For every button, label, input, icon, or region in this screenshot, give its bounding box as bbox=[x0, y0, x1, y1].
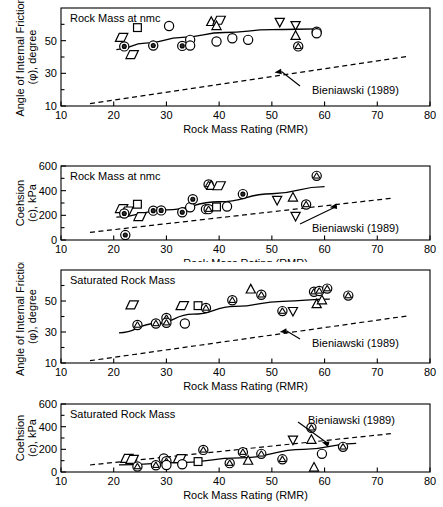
x-axis: 1020304050607080 bbox=[55, 102, 436, 122]
data-point-circle-hatch bbox=[133, 320, 142, 329]
y-tick-label: 600 bbox=[39, 160, 57, 172]
x-tick-label: 30 bbox=[160, 109, 172, 121]
x-tick-label: 80 bbox=[424, 366, 436, 378]
data-point-triangle-down bbox=[273, 196, 282, 205]
data-point-circle-hatch bbox=[312, 171, 321, 180]
x-axis: 1020304050607080 bbox=[55, 236, 436, 256]
y-axis-label-line2: (c), kPa bbox=[26, 418, 38, 457]
y-tick-label: 0 bbox=[51, 234, 57, 246]
data-point-circle-hatch bbox=[257, 290, 266, 299]
bieniawski-annotation: Bieniawski (1989) bbox=[280, 328, 399, 349]
data-point-triangle-down bbox=[275, 18, 284, 27]
data-point-circle bbox=[178, 460, 187, 469]
data-point-circle-dot bbox=[238, 190, 247, 199]
x-tick-label: 80 bbox=[424, 109, 436, 121]
chart-panel-panel-d: 10203040506070800200400600Rock Mass Rati… bbox=[0, 395, 443, 507]
data-point-circle-hatch bbox=[278, 306, 287, 315]
x-axis: 1020304050607080 bbox=[55, 359, 436, 379]
x-tick-label: 30 bbox=[160, 475, 172, 487]
chart-panel-panel-b: 10203040506070800200400600Rock Mass Rati… bbox=[0, 138, 443, 262]
x-tick-label: 40 bbox=[213, 243, 225, 255]
x-tick-label: 30 bbox=[160, 243, 172, 255]
data-point-parallelogram bbox=[126, 51, 138, 59]
x-tick-label: 80 bbox=[424, 475, 436, 487]
y-tick-label: 30 bbox=[45, 326, 57, 338]
data-point-parallelogram bbox=[126, 301, 138, 309]
bieniawski-annotation: Bieniawski (1989) bbox=[300, 204, 399, 234]
x-tick-label: 50 bbox=[266, 366, 278, 378]
data-point-circle bbox=[317, 449, 326, 458]
x-tick-label: 60 bbox=[318, 109, 330, 121]
x-tick-label: 40 bbox=[213, 109, 225, 121]
data-point-circle bbox=[162, 460, 171, 469]
panel-title: Saturated Rock Mass bbox=[70, 274, 176, 286]
data-point-circle-dot bbox=[157, 206, 166, 215]
x-axis-label: Rock Mass Rating (RMR) bbox=[183, 380, 308, 392]
y-tick-label: 50 bbox=[45, 35, 57, 47]
data-point-circle-hatch bbox=[228, 296, 237, 305]
x-tick-label: 20 bbox=[108, 109, 120, 121]
data-point-circle-hatch bbox=[133, 462, 142, 471]
data-point-circle-hatch bbox=[199, 445, 208, 454]
y-tick-label: 400 bbox=[39, 185, 57, 197]
x-tick-label: 40 bbox=[213, 366, 225, 378]
data-point-square bbox=[194, 458, 202, 466]
data-point-circle-hatch bbox=[225, 459, 234, 468]
x-axis-label: Rock Mass Rating (RMR) bbox=[183, 489, 308, 501]
data-point-circle-hatch bbox=[294, 42, 303, 51]
data-point-circle-hatch bbox=[162, 318, 171, 327]
y-tick-label: 0 bbox=[51, 466, 57, 478]
x-tick-label: 30 bbox=[160, 366, 172, 378]
x-tick-label: 50 bbox=[266, 243, 278, 255]
data-point-circle bbox=[212, 37, 221, 46]
x-tick-label: 80 bbox=[424, 243, 436, 255]
data-point-square bbox=[213, 203, 221, 211]
x-axis: 1020304050607080 bbox=[55, 468, 436, 488]
y-tick-label: 10 bbox=[45, 100, 57, 112]
data-layer bbox=[90, 423, 393, 471]
y-tick-label: 10 bbox=[45, 357, 57, 369]
data-point-circle bbox=[186, 41, 195, 50]
x-axis-label: Rock Mass Rating (RMR) bbox=[183, 123, 308, 135]
data-point-circle bbox=[228, 34, 237, 43]
data-point-triangle-up bbox=[309, 462, 318, 471]
data-point-triangle-down bbox=[288, 307, 297, 316]
x-tick-label: 70 bbox=[371, 109, 383, 121]
x-tick-label: 40 bbox=[213, 475, 225, 487]
data-point-triangle-up bbox=[246, 284, 255, 293]
data-point-circle-hatch bbox=[238, 448, 247, 457]
data-layer bbox=[90, 284, 409, 361]
bieniawski-annotation-label: Bieniawski (1989) bbox=[312, 222, 399, 234]
y-axis: 103050 bbox=[45, 286, 66, 370]
data-point-circle-hatch bbox=[201, 303, 210, 312]
data-point-circle-hatch bbox=[151, 461, 160, 470]
data-point-circle bbox=[312, 29, 321, 38]
y-tick-label: 400 bbox=[39, 421, 57, 433]
x-tick-label: 60 bbox=[318, 475, 330, 487]
data-point-circle-hatch bbox=[257, 449, 266, 458]
x-tick-label: 70 bbox=[371, 366, 383, 378]
data-point-circle-hatch bbox=[344, 291, 353, 300]
data-point-circle-dot bbox=[188, 195, 197, 204]
y-axis-label-line2: (c), kPa bbox=[26, 183, 38, 222]
panel-title: Rock Mass at nmc bbox=[70, 170, 161, 182]
x-tick-label: 20 bbox=[108, 243, 120, 255]
data-point-circle-hatch bbox=[278, 455, 287, 464]
x-tick-label: 70 bbox=[371, 243, 383, 255]
y-tick-label: 200 bbox=[39, 209, 57, 221]
y-tick-label: 600 bbox=[39, 398, 57, 410]
bieniawski-annotation-label: Bieniawski (1989) bbox=[312, 337, 399, 349]
data-point-square bbox=[134, 200, 142, 208]
y-axis: 103050 bbox=[45, 24, 66, 112]
y-axis: 0200400600 bbox=[39, 160, 66, 246]
data-point-circle bbox=[222, 202, 231, 211]
data-point-triangle-up bbox=[291, 31, 300, 40]
x-tick-label: 50 bbox=[266, 475, 278, 487]
chart-panel-panel-a: 1020304050607080103050Rock Mass Rating (… bbox=[0, 0, 443, 138]
x-tick-label: 70 bbox=[371, 475, 383, 487]
data-point-circle-hatch bbox=[151, 319, 160, 328]
panel-title: Rock Mass at nmc bbox=[70, 12, 161, 24]
fit-line bbox=[119, 299, 330, 333]
data-point-parallelogram bbox=[176, 302, 188, 310]
bieniawski-annotation-label: Bieniawski (1989) bbox=[312, 84, 399, 96]
